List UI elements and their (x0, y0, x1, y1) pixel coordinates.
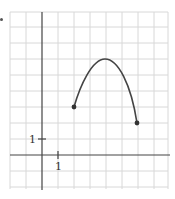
x-tick-label: 1 (55, 161, 62, 172)
graph (0, 0, 175, 199)
grid (10, 12, 168, 189)
start-point (72, 105, 77, 110)
y-tick-label: 1 (29, 134, 36, 145)
end-point (135, 121, 140, 126)
